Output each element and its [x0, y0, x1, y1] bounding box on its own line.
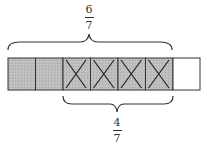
top-numerator: 6 [79, 4, 99, 15]
fraction-diagram [0, 0, 203, 150]
top-brace [8, 34, 172, 50]
bottom-fraction-label: 4 7 [107, 117, 127, 144]
cell-7 [173, 58, 200, 90]
fraction-line [113, 130, 122, 131]
bottom-brace [63, 96, 173, 112]
cell-1 [8, 58, 36, 90]
bottom-denominator: 7 [107, 133, 127, 144]
cell-3 [63, 58, 91, 90]
top-fraction-label: 6 7 [79, 4, 99, 31]
top-denominator: 7 [79, 20, 99, 31]
cell-2 [36, 58, 64, 90]
bottom-numerator: 4 [107, 117, 127, 128]
fraction-bar [8, 58, 200, 90]
fraction-line [85, 17, 94, 18]
